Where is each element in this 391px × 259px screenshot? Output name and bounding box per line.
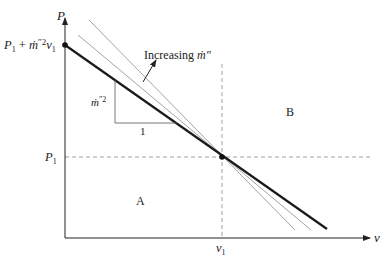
x-axis-label: v xyxy=(374,230,380,245)
region-b-label: B xyxy=(286,105,294,119)
diagram-canvas: P v P1 + ṁ″2v1 P1 v1 Increasing ṁ″ ṁ″2 1… xyxy=(0,0,391,259)
slope-run-label: 1 xyxy=(140,125,146,137)
region-a-label: A xyxy=(136,194,145,208)
increasing-label: Increasing ṁ″ xyxy=(144,48,212,62)
p1-label: P1 xyxy=(44,150,57,166)
intercept-label: P1 + ṁ″2v1 xyxy=(3,37,56,54)
rayleigh-line-diagram: P v P1 + ṁ″2v1 P1 v1 Increasing ṁ″ ṁ″2 1… xyxy=(0,0,391,259)
intercept-point xyxy=(62,42,68,48)
v1-label: v1 xyxy=(216,241,226,257)
rayleigh-line-thick xyxy=(65,45,327,229)
y-axis-label: P xyxy=(56,8,65,23)
state-1-point xyxy=(219,154,225,160)
increasing-arrow-icon xyxy=(143,60,156,82)
slope-rise-label: ṁ″2 xyxy=(91,95,106,108)
rayleigh-line-thin-1 xyxy=(78,35,311,230)
